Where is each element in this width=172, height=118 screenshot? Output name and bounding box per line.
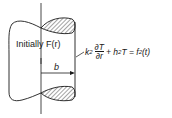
- body-outline: [9, 21, 41, 101]
- initial-condition-label: Initially F(r): [16, 39, 61, 49]
- radius-label: b: [54, 62, 59, 72]
- derivative-fraction: ∂T ∂r: [95, 43, 104, 60]
- top-hatched-lobe: [41, 18, 75, 34]
- bottom-hatched-lobe: [41, 86, 75, 100]
- arrow-head-icon: [70, 71, 75, 75]
- leader-line: [76, 52, 84, 57]
- boundary-condition-equation: k2 ∂T ∂r + h2 T = f2 (t): [85, 43, 150, 60]
